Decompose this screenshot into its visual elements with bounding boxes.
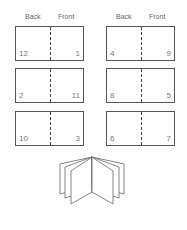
- fold-line: [141, 112, 142, 145]
- front-page-number: 5: [167, 91, 171, 100]
- open-booklet-icon: [52, 154, 132, 209]
- front-page-number: 7: [167, 134, 171, 143]
- fold-line: [141, 69, 142, 102]
- back-page-number: 2: [19, 91, 23, 100]
- back-page-number: 10: [19, 134, 28, 143]
- sheet-3: 2 11: [15, 68, 84, 103]
- back-page-number: 6: [110, 134, 114, 143]
- sheet-2: 4 9: [106, 26, 175, 61]
- fold-line: [141, 27, 142, 60]
- front-page-number: 1: [76, 49, 80, 58]
- back-page-number: 8: [110, 91, 114, 100]
- back-page-number: 4: [110, 49, 114, 58]
- fold-line: [50, 69, 51, 102]
- front-page-number: 9: [167, 49, 171, 58]
- front-label: Front: [149, 13, 165, 20]
- back-label: Back: [25, 13, 41, 20]
- sheet-4: 8 5: [106, 68, 175, 103]
- fold-line: [50, 27, 51, 60]
- back-page-number: 12: [19, 49, 28, 58]
- front-page-number: 11: [72, 91, 80, 100]
- front-page-number: 3: [76, 134, 80, 143]
- sheet-1: 12 1: [15, 26, 84, 61]
- front-label: Front: [58, 13, 74, 20]
- fold-line: [50, 112, 51, 145]
- sheet-6: 6 7: [106, 111, 175, 146]
- sheet-5: 10 3: [15, 111, 84, 146]
- back-label: Back: [116, 13, 132, 20]
